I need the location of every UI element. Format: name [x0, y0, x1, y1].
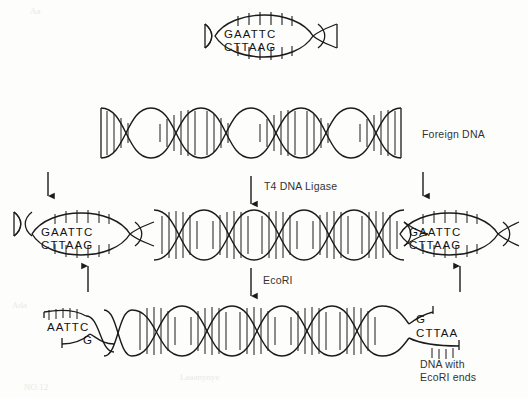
scan-watermark: Ada [12, 300, 27, 310]
ecori-ends-line1: DNA with [420, 358, 465, 370]
helix-stub-right [313, 24, 337, 48]
figure-canvas: GAATTC CTTAAG GAATTC CTTAAG GAATTC CTTAA… [0, 0, 528, 398]
cut-left-top-strand: AATTC [47, 321, 89, 334]
foreign-dna-label: Foreign DNA [422, 128, 485, 141]
ligated-left-stub [14, 212, 32, 236]
ecori-ends-label: DNA with EcoRI ends [420, 358, 476, 384]
cut-row [44, 306, 459, 359]
foreign-dna-rungs [107, 110, 395, 156]
ecori-label-italic: Eco [263, 274, 282, 286]
scan-watermark: Laaanynye [180, 372, 219, 382]
ligated-left-bottom-strand: CTTAAG [41, 239, 93, 252]
ligated-left-top-strand: GAATTC [41, 226, 93, 239]
ecori-ends-roman: RI ends [439, 371, 477, 383]
ligated-right-stub [498, 222, 519, 246]
top-fragment-bottom-strand: CTTAAG [224, 41, 276, 54]
cut-left-bottom-strand: G [83, 334, 93, 347]
ligated-right-bottom-strand: CTTAAG [409, 239, 461, 252]
base-pair-rungs-top [238, 12, 292, 26]
scan-watermark: NO.12 [24, 382, 48, 392]
foreign-dna-row [101, 108, 401, 158]
ligated-right-top-strand: GAATTC [409, 226, 461, 239]
scan-watermark: Aa [30, 6, 41, 16]
cut-right-bottom-strand: CTTAA [416, 327, 458, 340]
ecori-label: EcoRI [263, 274, 293, 287]
cut-right-top-strand: G [416, 313, 426, 326]
ecori-ends-italic: Eco [420, 371, 439, 383]
ecori-label-roman: RI [282, 274, 293, 286]
ecori-ends-line2: EcoRI ends [420, 371, 476, 384]
top-fragment-top-strand: GAATTC [224, 28, 276, 41]
ligase-label: T4 DNA Ligase [264, 180, 337, 193]
helix-stub-left [205, 24, 212, 48]
